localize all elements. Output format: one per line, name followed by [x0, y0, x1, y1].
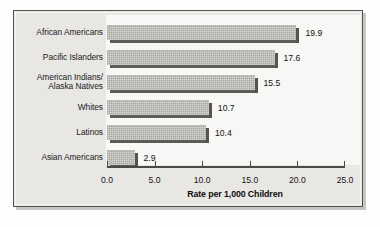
bar-bottom-edge	[110, 115, 212, 118]
bar-row: Whites10.7	[14, 96, 364, 119]
x-axis-line	[107, 166, 345, 168]
bar-bottom-edge	[110, 65, 278, 68]
bar	[107, 50, 275, 65]
x-axis-tick	[107, 161, 108, 168]
bar-value-label: 17.6	[284, 53, 301, 63]
bar	[107, 125, 206, 140]
x-axis-tick-label: 20.0	[289, 175, 306, 185]
bar	[107, 150, 135, 165]
bar-front-face	[107, 100, 209, 115]
x-axis-tick	[344, 161, 345, 168]
bar-row: Pacific Islanders17.6	[14, 46, 364, 69]
x-axis-tick	[250, 161, 251, 168]
bar-front-face	[107, 50, 275, 65]
x-axis-tick	[297, 161, 298, 168]
x-axis-tick	[202, 161, 203, 168]
category-label: Asian Americans	[41, 153, 103, 163]
bar-value-label: 10.7	[218, 103, 235, 113]
bar-front-face	[107, 25, 296, 40]
bar-front-face	[107, 75, 255, 90]
bar-row: American Indians/ Alaska Natives15.5	[14, 71, 364, 94]
bar-value-label: 15.5	[264, 78, 281, 88]
category-label: American Indians/ Alaska Natives	[37, 73, 103, 92]
bar-front-face	[107, 150, 135, 165]
bar-front-face	[107, 125, 206, 140]
bar-bottom-edge	[110, 140, 209, 143]
x-axis-tick-label: 25.0	[337, 175, 354, 185]
bar-row: African Americans19.9	[14, 21, 364, 44]
x-axis-tick-label: 5.0	[149, 175, 161, 185]
x-axis-tick	[155, 161, 156, 168]
bar-side-face	[296, 28, 299, 43]
x-axis-tick-label: 15.0	[241, 175, 258, 185]
bar	[107, 75, 255, 90]
bar-side-face	[206, 128, 209, 143]
bar-side-face	[255, 78, 258, 93]
bar-side-face	[209, 103, 212, 118]
category-label: African Americans	[36, 28, 103, 38]
bar-value-label: 10.4	[215, 128, 232, 138]
x-axis-tick-label: 10.0	[194, 175, 211, 185]
category-label: Pacific Islanders	[43, 53, 103, 63]
bar	[107, 25, 296, 40]
chart-frame: African Americans19.9Pacific Islanders17…	[13, 10, 363, 207]
bar-side-face	[275, 53, 278, 68]
bar-bottom-edge	[110, 90, 258, 93]
bar-bottom-edge	[110, 40, 299, 43]
bar-value-label: 19.9	[305, 28, 322, 38]
bar-rows: African Americans19.9Pacific Islanders17…	[14, 21, 364, 161]
x-axis-tick-labels: 0.05.010.015.020.025.0	[14, 175, 364, 187]
x-axis-tick-label: 0.0	[101, 175, 113, 185]
category-label: Whites	[78, 103, 103, 113]
category-label: Latinos	[76, 128, 103, 138]
bar	[107, 100, 209, 115]
x-axis-title: Rate per 1,000 Children	[14, 189, 364, 199]
bar-row: Latinos10.4	[14, 121, 364, 144]
bar-chart-figure: African Americans19.9Pacific Islanders17…	[0, 0, 380, 227]
